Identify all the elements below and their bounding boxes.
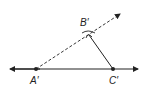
label-b: B′ [80,17,90,28]
construction-diagram: A′ B′ C′ [0,0,144,90]
point-a [34,67,38,71]
arc-mark-1 [82,31,95,33]
label-a: A′ [29,75,40,86]
segment-cb [89,35,113,69]
point-c [111,67,115,71]
label-c: C′ [109,75,119,86]
